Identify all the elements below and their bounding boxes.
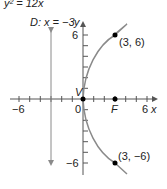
x-axis-label: x bbox=[150, 103, 157, 115]
tick-x-zero: 0 bbox=[75, 103, 81, 115]
point-lower bbox=[113, 161, 118, 166]
directrix-label: D: x = −3 bbox=[30, 16, 76, 28]
tick-x-max: 6 bbox=[142, 103, 148, 115]
parabola-chart: y² = 12x D: x = −3 y x V F −6 0 6 6 −6 (… bbox=[0, 0, 167, 189]
point-upper bbox=[113, 33, 118, 38]
tick-y-max: 6 bbox=[72, 29, 78, 41]
focus-label: F bbox=[111, 103, 119, 115]
tick-y-min: −6 bbox=[66, 157, 79, 169]
equation-label: y² = 12x bbox=[3, 0, 44, 9]
focus-point bbox=[113, 97, 118, 102]
point-lower-label: (3, −6) bbox=[118, 150, 150, 162]
point-upper-label: (3, 6) bbox=[119, 36, 145, 48]
tick-x-min: −6 bbox=[12, 103, 25, 115]
y-axis-label: y bbox=[73, 16, 81, 28]
